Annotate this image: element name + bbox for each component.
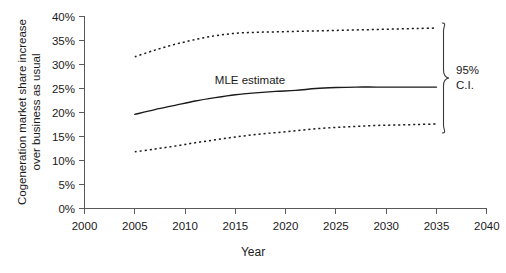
x-tick-label: 2000 [72,220,98,232]
series-ci-lower [135,124,437,152]
mle-estimate-label: MLE estimate [215,74,285,86]
y-tick-label: 5% [58,179,75,191]
x-tick-label: 2005 [122,220,148,232]
y-tick-label: 25% [52,83,75,95]
series-ci-upper [135,28,437,57]
x-tick-label: 2030 [373,220,399,232]
ci-label-line-1: 95% [456,64,479,76]
y-axis-title: Cogeneration market share increase over … [16,19,42,205]
x-tick-label: 2010 [172,220,198,232]
x-tick-label: 2040 [474,220,500,232]
x-tick-label: 2035 [424,220,450,232]
y-tick-label: 0% [58,203,75,215]
y-tick-label: 30% [52,59,75,71]
confidence-interval-brace [442,23,449,133]
y-tick-label: 15% [52,131,75,143]
x-tick-marks [85,209,487,215]
x-tick-label: 2020 [273,220,299,232]
chart-figure: 40% 35% 30% 25% 20% 15% 10% 5% 0% 2000 2… [0,0,506,273]
ci-label-line-2: C.I. [456,79,474,91]
y-tick-marks [79,17,85,209]
x-tick-label: 2025 [323,220,349,232]
y-tick-labels: 40% 35% 30% 25% 20% 15% 10% 5% 0% [52,11,75,215]
series-mle-estimate [135,87,437,114]
y-tick-label: 40% [52,11,75,23]
y-tick-label: 10% [52,155,75,167]
y-axis-title-line-2: over business as usual [30,54,42,171]
y-axis-title-line-1: Cogeneration market share increase [16,19,28,205]
y-tick-label: 35% [52,35,75,47]
x-axis-title: Year [241,245,265,259]
x-tick-labels: 2000 2005 2010 2015 2020 2025 2030 2035 … [72,220,500,232]
x-tick-label: 2015 [223,220,249,232]
y-tick-label: 20% [52,107,75,119]
chart-svg: 40% 35% 30% 25% 20% 15% 10% 5% 0% 2000 2… [0,0,506,273]
data-series-group [135,28,437,152]
